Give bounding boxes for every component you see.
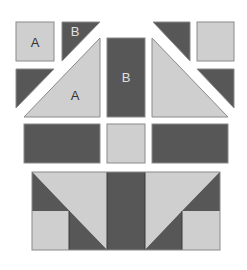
row3-left-rect (24, 124, 100, 163)
row3-center-square (107, 124, 145, 163)
assembled-block (32, 172, 220, 250)
top-right-square (197, 22, 234, 61)
label-big-triangle-a: A (71, 88, 80, 103)
label-center-rect-b: B (122, 70, 131, 85)
row3-right-rect (152, 124, 228, 163)
label-square-a: A (31, 35, 40, 50)
quilt-block-diagram: A B B A (0, 0, 247, 270)
label-triangle-b: B (71, 24, 80, 39)
